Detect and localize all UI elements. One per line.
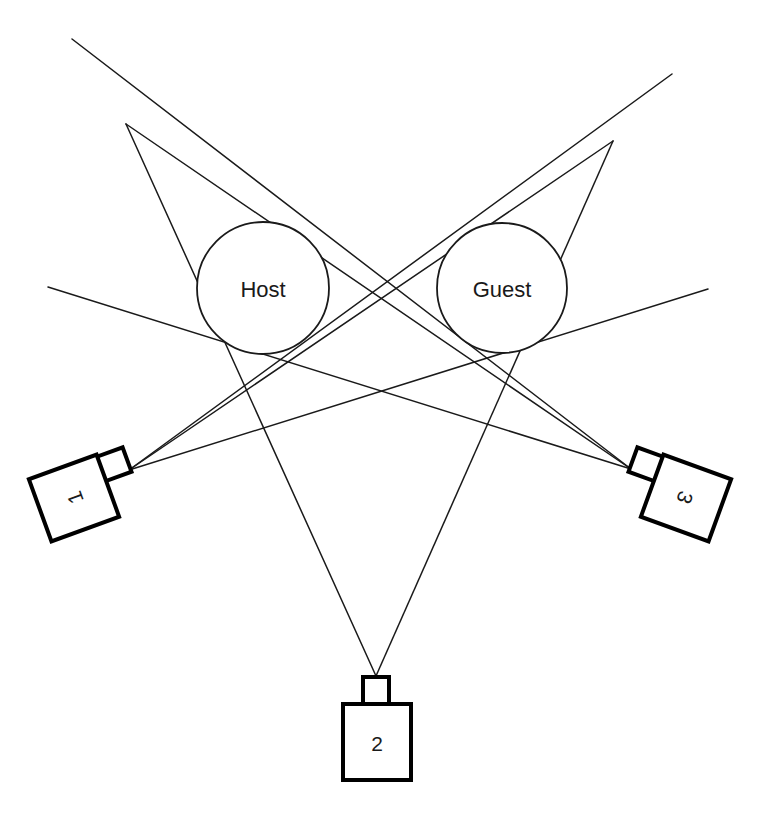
sight-lines-group	[48, 39, 708, 676]
camera-2-label: 2	[371, 732, 383, 755]
subject-guest: Guest	[437, 223, 567, 353]
camera-2[interactable]: 2	[343, 677, 411, 780]
camera-1[interactable]: 1	[29, 445, 145, 541]
subject-label-guest: Guest	[473, 277, 532, 302]
camera-3[interactable]: 3	[616, 445, 732, 541]
cameras-group: 123	[29, 445, 731, 780]
sight-line-cam2-edge-a	[126, 124, 376, 676]
subject-host: Host	[197, 222, 329, 354]
subject-label-host: Host	[240, 277, 285, 302]
diagram-canvas: HostGuest 123	[0, 0, 763, 816]
subjects-group: HostGuest	[197, 222, 567, 354]
camera-layout-diagram: HostGuest 123	[0, 0, 763, 816]
